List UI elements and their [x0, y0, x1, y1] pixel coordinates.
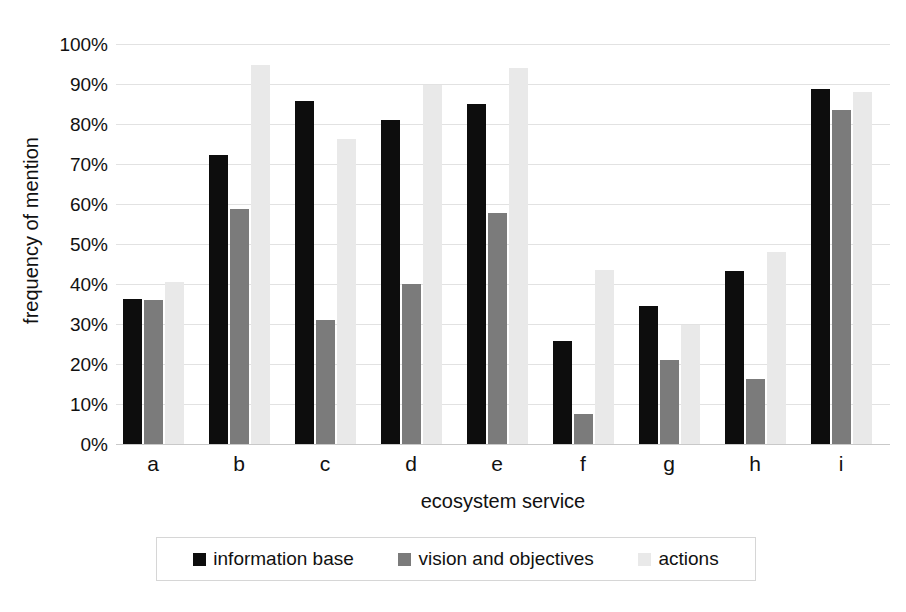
bar — [165, 282, 184, 444]
bar — [832, 110, 851, 444]
bar — [467, 104, 486, 444]
y-tick-label: 30% — [0, 315, 108, 334]
bar-group — [467, 44, 528, 444]
y-tick-label: 20% — [0, 355, 108, 374]
bar — [316, 320, 335, 444]
bar — [251, 65, 270, 444]
legend-label: vision and objectives — [418, 548, 593, 570]
y-tick-label: 80% — [0, 115, 108, 134]
y-tick-label: 0% — [0, 435, 108, 454]
x-axis-title: ecosystem service — [116, 490, 890, 513]
bar-group — [811, 44, 872, 444]
bar — [574, 414, 593, 444]
bar — [488, 213, 507, 444]
bar-group — [553, 44, 614, 444]
bar — [509, 68, 528, 444]
y-tick-label: 60% — [0, 195, 108, 214]
x-tick-label: b — [208, 452, 270, 475]
chart-legend: information basevision and objectivesact… — [156, 537, 756, 581]
bar — [123, 299, 142, 444]
bar — [295, 101, 314, 444]
x-tick-label: i — [810, 452, 872, 475]
bar — [746, 379, 765, 444]
bar-chart: frequency of mention 0%10%20%30%40%50%60… — [0, 0, 906, 612]
legend-swatch-icon — [398, 553, 411, 566]
bar — [767, 252, 786, 444]
y-tick-label: 100% — [0, 35, 108, 54]
y-tick-label: 10% — [0, 395, 108, 414]
y-axis-tick-labels: 0%10%20%30%40%50%60%70%80%90%100% — [0, 0, 108, 400]
gridline — [116, 444, 890, 445]
bar — [639, 306, 658, 444]
bar-group — [381, 44, 442, 444]
plot-area — [116, 44, 890, 444]
legend-swatch-icon — [638, 553, 651, 566]
bar — [381, 120, 400, 444]
legend-entry[interactable]: vision and objectives — [398, 548, 593, 570]
y-tick-label: 90% — [0, 75, 108, 94]
bar — [681, 325, 700, 444]
bar — [144, 300, 163, 444]
x-tick-label: f — [552, 452, 614, 475]
x-tick-label: h — [724, 452, 786, 475]
x-tick-label: g — [638, 452, 700, 475]
legend-entry[interactable]: actions — [638, 548, 718, 570]
x-tick-label: e — [466, 452, 528, 475]
bar-group — [725, 44, 786, 444]
bar — [660, 360, 679, 444]
bar-group — [639, 44, 700, 444]
bar-group — [123, 44, 184, 444]
bar — [209, 155, 228, 444]
x-tick-label: d — [380, 452, 442, 475]
bar — [402, 284, 421, 444]
x-tick-label: c — [294, 452, 356, 475]
legend-entry[interactable]: information base — [193, 548, 353, 570]
y-tick-label: 70% — [0, 155, 108, 174]
bar — [811, 89, 830, 444]
bar-group — [209, 44, 270, 444]
x-axis-tick-labels: abcdefghi — [116, 452, 890, 486]
bar-group — [295, 44, 356, 444]
bar — [853, 92, 872, 444]
x-tick-label: a — [122, 452, 184, 475]
legend-label: actions — [658, 548, 718, 570]
bar — [337, 139, 356, 444]
bar — [553, 341, 572, 444]
bar — [230, 209, 249, 444]
legend-swatch-icon — [193, 553, 206, 566]
bar-layer — [116, 44, 890, 444]
bar — [423, 85, 442, 444]
y-tick-label: 50% — [0, 235, 108, 254]
y-tick-label: 40% — [0, 275, 108, 294]
bar — [725, 271, 744, 444]
legend-label: information base — [213, 548, 353, 570]
bar — [595, 270, 614, 444]
